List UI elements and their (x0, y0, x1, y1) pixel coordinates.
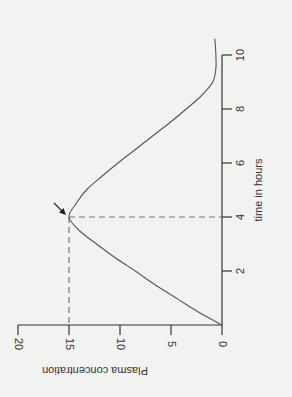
concentration-curve (69, 39, 222, 325)
time-tick-label: 6 (234, 160, 246, 166)
time-axis-ticks (222, 55, 232, 271)
peak-arrow-icon (54, 203, 66, 215)
time-tick-label: 10 (234, 49, 246, 61)
concentration-axis-ticks (18, 325, 222, 335)
concentration-tick-label: 5 (166, 341, 178, 347)
time-tick-label: 8 (234, 106, 246, 112)
concentration-tick-label: 10 (115, 338, 127, 350)
concentration-tick-label: 0 (217, 341, 229, 347)
time-axis-labels: 246810 (234, 49, 246, 274)
time-tick-label: 2 (234, 268, 246, 274)
concentration-axis-title: Plasma concentration (42, 365, 148, 377)
concentration-tick-label: 15 (64, 338, 76, 350)
plasma-concentration-chart: 246810 05101520 time in hours Plasma con… (0, 0, 292, 397)
time-tick-label: 4 (234, 214, 246, 220)
time-axis-title: time in hours (252, 158, 264, 221)
concentration-tick-label: 20 (13, 338, 25, 350)
concentration-axis-labels: 05101520 (13, 338, 229, 350)
